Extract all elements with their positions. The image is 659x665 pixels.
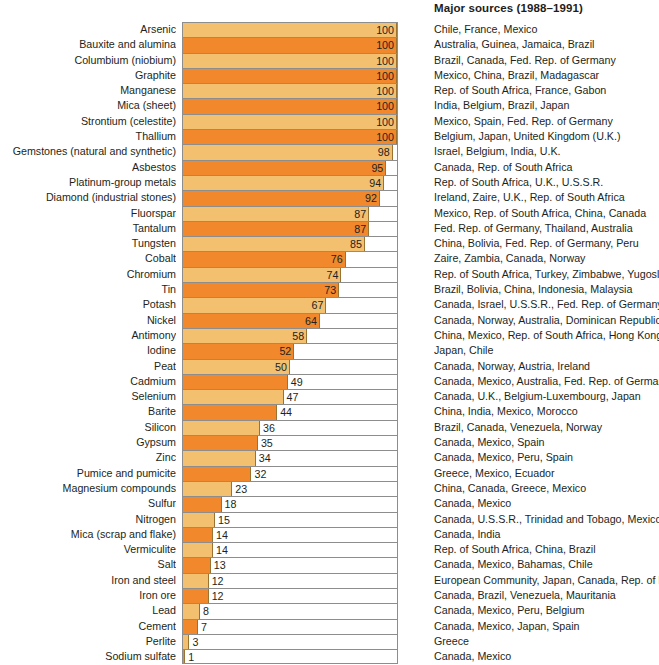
category-label: Manganese [0,83,176,98]
category-label: Fluorspar [0,206,176,221]
bar [183,436,258,450]
bar [183,390,284,404]
chart-row: Vermiculite14Rep. of South Africa, China… [0,542,659,557]
bar-track: 94 [182,175,398,190]
chart-row: Cobalt76Zaire, Zambia, Canada, Norway [0,251,659,266]
source-countries: Canada, Norway, Austria, Ireland [434,359,659,374]
bar-track: 100 [182,98,398,113]
chart-row: Antimony58China, Mexico, Rep. of South A… [0,328,659,343]
bar-value-label: 34 [259,451,400,466]
bar-value-label: 1 [188,650,400,665]
chart-row: Iron ore12Canada, Brazil, Venezuela, Mau… [0,588,659,603]
chart-row: Manganese100Rep. of South Africa, France… [0,83,659,98]
bar-track: 34 [182,450,398,465]
bar-track: 100 [182,114,398,129]
chart-row: Lead8Canada, Mexico, Peru, Belgium [0,603,659,618]
chart-row: Potash67Canada, Israel, U.S.S.R., Fed. R… [0,297,659,312]
category-label: Lead [0,603,176,618]
source-countries: Mexico, Spain, Fed. Rep. of Germany [434,114,659,129]
category-label: Graphite [0,68,176,83]
bar-value-label: 100 [183,69,394,84]
bar-value-label: 44 [280,405,400,420]
category-label: Pumice and pumicite [0,466,176,481]
category-label: Mica (sheet) [0,98,176,113]
bar-value-label: 50 [183,360,287,375]
bar-track: 13 [182,557,398,572]
source-countries: Canada, Mexico, Spain [434,435,659,450]
bar [183,421,260,435]
category-label: Perlite [0,634,176,649]
source-countries: Rep. of South Africa, U.K., U.S.S.R. [434,175,659,190]
bar-value-label: 64 [183,314,317,329]
bar [183,589,209,603]
bar-track: 18 [182,496,398,511]
bar [183,635,189,649]
category-label: Cadmium [0,374,176,389]
chart-row: Peat50Canada, Norway, Austria, Ireland [0,359,659,374]
bar-track: 73 [182,282,398,297]
chart-row: Columbium (niobium)100Brazil, Canada, Fe… [0,53,659,68]
category-label: Bauxite and alumina [0,37,176,52]
bar-value-label: 13 [214,558,400,573]
category-label: Strontium (celestite) [0,114,176,129]
source-countries: Canada, U.S.S.R., Trinidad and Tobago, M… [434,512,659,527]
chart-row: Mica (scrap and flake)14Canada, India [0,527,659,542]
chart-row: Pumice and pumicite32Greece, Mexico, Ecu… [0,466,659,481]
source-countries: Canada, Mexico [434,496,659,511]
bar-track: 100 [182,37,398,52]
category-label: Nitrogen [0,512,176,527]
chart-row: Mica (sheet)100India, Belgium, Brazil, J… [0,98,659,113]
bar-track: 67 [182,297,398,312]
source-countries: Mexico, Rep. of South Africa, China, Can… [434,206,659,221]
category-label: Columbium (niobium) [0,53,176,68]
bar-value-label: 23 [235,482,400,497]
bar-value-label: 3 [192,635,400,650]
category-label: Silicon [0,420,176,435]
bar-value-label: 35 [261,436,400,451]
bar-value-label: 100 [183,115,394,130]
source-countries: Canada, Mexico, Peru, Spain [434,450,659,465]
bar-track: 95 [182,160,398,175]
source-countries: Fed. Rep. of Germany, Thailand, Australi… [434,221,659,236]
category-label: Cobalt [0,251,176,266]
bar [183,405,277,419]
source-countries: Chile, France, Mexico [434,22,659,37]
bar-value-label: 100 [183,99,394,114]
bar-track: 49 [182,374,398,389]
bar-track: 8 [182,603,398,618]
source-countries: Mexico, China, Brazil, Madagascar [434,68,659,83]
source-countries: Canada, Mexico, Japan, Spain [434,619,659,634]
chart-row: Graphite100Mexico, China, Brazil, Madaga… [0,68,659,83]
bar-track: 15 [182,512,398,527]
chart-row: Gypsum35Canada, Mexico, Spain [0,435,659,450]
bar-value-label: 15 [218,513,400,528]
chart-row: Fluorspar87Mexico, Rep. of South Africa,… [0,206,659,221]
bar-track: 100 [182,22,398,37]
source-countries: Rep. of South Africa, China, Brazil [434,542,659,557]
chart-row: Arsenic100Chile, France, Mexico [0,22,659,37]
source-countries: India, Belgium, Brazil, Japan [434,98,659,113]
source-countries: Canada, Rep. of South Africa [434,160,659,175]
chart-row: Silicon36Brazil, Canada, Venezuela, Norw… [0,420,659,435]
bar-track: 52 [182,343,398,358]
bar-track: 100 [182,68,398,83]
chart-row: Tungsten85China, Bolivia, Fed. Rep. of G… [0,236,659,251]
bar-value-label: 14 [216,543,400,558]
source-countries: Canada, U.K., Belgium-Luxembourg, Japan [434,389,659,404]
bar-value-label: 73 [183,283,336,298]
bar-value-label: 76 [183,252,343,267]
chart-row: Nitrogen15Canada, U.S.S.R., Trinidad and… [0,512,659,527]
category-label: Nickel [0,313,176,328]
category-label: Gemstones (natural and synthetic) [0,144,176,159]
chart-row: Perlite3Greece [0,634,659,649]
source-countries: Ireland, Zaire, U.K., Rep. of South Afri… [434,190,659,205]
category-label: Arsenic [0,22,176,37]
bar-value-label: 98 [183,145,390,160]
bar-track: 23 [182,481,398,496]
category-label: Tin [0,282,176,297]
bar-value-label: 58 [183,329,304,344]
bar-track: 100 [182,129,398,144]
bar-track: 50 [182,359,398,374]
bar [183,543,213,557]
